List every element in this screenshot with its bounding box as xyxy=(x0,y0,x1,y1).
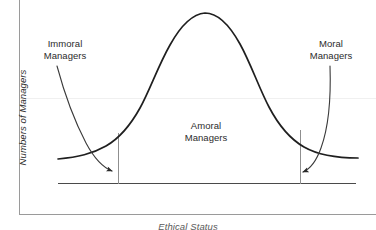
moral-management-figure: Immoral Managers Moral Managers Amoral M… xyxy=(0,0,376,230)
x-axis-label: Ethical Status xyxy=(0,221,376,230)
immoral-managers-label: Immoral Managers xyxy=(26,38,104,61)
amoral-managers-label: Amoral Managers xyxy=(163,120,249,143)
moral-managers-label: Moral Managers xyxy=(292,38,370,61)
distribution-chart-svg xyxy=(0,0,376,230)
moral-leader-arrow xyxy=(303,66,330,172)
plot-frame xyxy=(20,0,376,215)
y-axis-label: Numbers of Managers xyxy=(17,43,28,193)
